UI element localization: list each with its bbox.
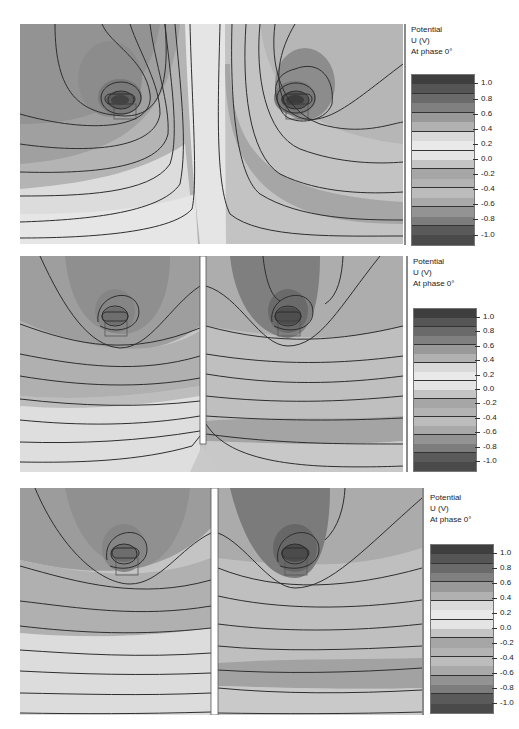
colorbar-band [412, 103, 474, 112]
colorbar-band [412, 84, 474, 93]
colorbar-band [431, 648, 493, 657]
colorbar-band [414, 453, 476, 462]
colorbar-gradient [413, 308, 477, 472]
colorbar-band [412, 113, 474, 122]
colorbar-tick-label: -0.8 [483, 443, 497, 451]
colorbar-tick [475, 331, 480, 332]
colorbar-tick-label: -0.8 [481, 215, 495, 223]
colorbar-band [412, 132, 474, 141]
colorbar-band [414, 435, 476, 444]
colorbar-band [431, 573, 493, 582]
colorbar-band [412, 122, 474, 131]
legend-title-quantity: Potential [413, 256, 519, 267]
colorbar-tick-label: -1.0 [483, 457, 497, 465]
colorbar-tick [475, 432, 480, 433]
colorbar-tick [473, 144, 478, 145]
contour-plot-bottom [20, 488, 422, 715]
colorbar-tick [473, 159, 478, 160]
colorbar-tick [475, 346, 480, 347]
colorbar-band [414, 381, 476, 390]
colorbar-tick-label: 0.0 [481, 155, 492, 163]
legend-title-phase: At phase 0° [430, 514, 519, 525]
contour-field-bottom [20, 488, 422, 715]
legend-title-phase: At phase 0° [411, 46, 519, 57]
legend-title-unit: U (V) [413, 267, 519, 278]
colorbar-tick-label: 0.4 [483, 356, 494, 364]
colorbar-tick-label: 0.8 [500, 564, 511, 572]
legend-title-unit: U (V) [430, 503, 519, 514]
colorbar-tick-label: -0.2 [481, 170, 495, 178]
colorbar-tick [473, 219, 478, 220]
colorbar-legend-middle: Potential U (V) At phase 0° 1.00.80.60.4… [413, 256, 519, 472]
colorbar-band [414, 444, 476, 453]
colorbar-band [431, 657, 493, 666]
colorbar-band [431, 601, 493, 610]
plot-frame-edge-bottom [422, 488, 424, 715]
panel-top: Potential U (V) At phase 0° 1.00.80.60.4… [0, 24, 519, 245]
colorbar-tick [492, 673, 497, 674]
colorbar-band [412, 160, 474, 169]
colorbar-band [414, 462, 476, 471]
colorbar-band [431, 629, 493, 638]
colorbar-tick [475, 418, 480, 419]
colorbar-band [431, 545, 493, 554]
colorbar-tick-label: 0.4 [500, 594, 511, 602]
colorbar-tick [475, 317, 480, 318]
colorbar-tick [475, 389, 480, 390]
colorbar-tick-label: 0.2 [500, 609, 511, 617]
colorbar-tick-label: 0.2 [481, 140, 492, 148]
colorbar-band [431, 610, 493, 619]
colorbar-tick [492, 583, 497, 584]
colorbar-band [412, 217, 474, 226]
colorbar-band [431, 704, 493, 713]
colorbar-tick-label: -0.4 [481, 185, 495, 193]
colorbar-band [412, 179, 474, 188]
colorbar-tick [492, 568, 497, 569]
contour-field-middle [20, 256, 403, 472]
colorbar-tick [473, 174, 478, 175]
colorbar-band [414, 345, 476, 354]
colorbar-tick [492, 703, 497, 704]
colorbar-tick [473, 204, 478, 205]
colorbar-band [414, 390, 476, 399]
colorbar-top: 1.00.80.60.40.20.0-0.2-0.4-0.6-0.8-1.0 [411, 74, 519, 244]
colorbar-band [412, 141, 474, 150]
colorbar-tick [475, 375, 480, 376]
colorbar-band [431, 694, 493, 703]
colorbar-band [414, 426, 476, 435]
colorbar-tick-label: 1.0 [500, 549, 511, 557]
colorbar-band [414, 417, 476, 426]
colorbar-tick-label: 0.6 [481, 110, 492, 118]
colorbar-bottom: 1.00.80.60.40.20.0-0.2-0.4-0.6-0.8-1.0 [430, 544, 519, 712]
colorbar-tick-label: 0.8 [483, 327, 494, 335]
colorbar-tick-label: 0.4 [481, 125, 492, 133]
colorbar-tick [475, 403, 480, 404]
colorbar-tick-label: 0.0 [500, 624, 511, 632]
colorbar-band [431, 666, 493, 675]
colorbar-band [431, 582, 493, 591]
colorbar-tick [492, 613, 497, 614]
colorbar-band [431, 620, 493, 629]
colorbar-tick-label: 0.6 [483, 342, 494, 350]
colorbar-band [412, 151, 474, 160]
plot-frame-edge-middle [406, 256, 408, 472]
panel-bottom: Potential U (V) At phase 0° 1.00.80.60.4… [0, 488, 519, 715]
colorbar-tick [473, 99, 478, 100]
colorbar-band [414, 399, 476, 408]
colorbar-tick-label: -0.2 [483, 399, 497, 407]
plot-frame-edge-top [404, 24, 406, 245]
colorbar-middle: 1.00.80.60.40.20.0-0.2-0.4-0.6-0.8-1.0 [413, 308, 519, 470]
colorbar-tick-label: -1.0 [481, 231, 495, 239]
colorbar-tick-label: 1.0 [483, 313, 494, 321]
colorbar-band [412, 169, 474, 178]
colorbar-tick [492, 553, 497, 554]
colorbar-tick [475, 461, 480, 462]
colorbar-band [414, 318, 476, 327]
colorbar-band [414, 408, 476, 417]
colorbar-band [412, 188, 474, 197]
legend-title-unit: U (V) [411, 35, 519, 46]
colorbar-legend-top: Potential U (V) At phase 0° 1.00.80.60.4… [411, 24, 519, 245]
colorbar-tick-label: 0.8 [481, 95, 492, 103]
colorbar-tick [492, 688, 497, 689]
colorbar-tick [473, 189, 478, 190]
